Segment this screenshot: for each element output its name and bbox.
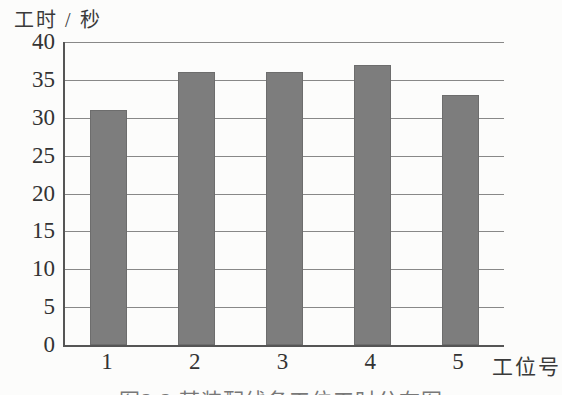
gridline-y-40	[65, 42, 504, 43]
figure-caption-cropped: 图2-2 某装配线各工位工时分布图	[0, 384, 562, 395]
y-tick-label-35: 35	[7, 67, 55, 93]
y-tick-label-5: 5	[7, 294, 55, 320]
x-tick-label-3: 3	[261, 349, 305, 375]
x-tick-label-2: 2	[173, 349, 217, 375]
y-tick-label-40: 40	[7, 29, 55, 55]
y-tick-label-25: 25	[7, 143, 55, 169]
x-tick-label-5: 5	[436, 349, 480, 375]
bar-station-1	[90, 110, 127, 345]
bar-station-4	[354, 65, 391, 345]
y-tick-label-0: 0	[7, 332, 55, 358]
y-tick-label-10: 10	[7, 256, 55, 282]
scanned-bar-chart-figure: 工时 / 秒 4035302520151050 12345 工位号 图2-2 某…	[0, 0, 562, 395]
x-tick-label-1: 1	[85, 349, 129, 375]
plot-area	[63, 42, 504, 347]
y-tick-label-30: 30	[7, 105, 55, 131]
x-tick-label-4: 4	[348, 349, 392, 375]
bar-station-3	[266, 72, 303, 345]
bar-station-5	[442, 95, 479, 345]
bar-station-2	[178, 72, 215, 345]
y-tick-label-20: 20	[7, 181, 55, 207]
y-tick-label-15: 15	[7, 218, 55, 244]
x-axis-title: 工位号	[492, 350, 561, 380]
